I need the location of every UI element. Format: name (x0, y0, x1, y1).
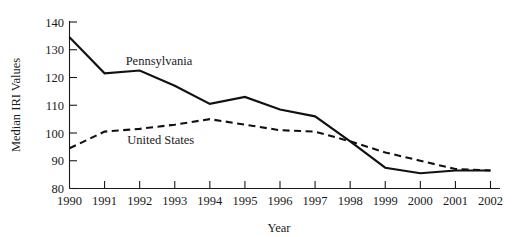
x-tick-label: 1994 (197, 194, 223, 208)
line-chart: Median IRI Values Year 80901001101201301… (0, 0, 524, 237)
y-tick-label: 110 (46, 99, 64, 113)
x-tick-label: 2000 (408, 194, 433, 208)
x-tick-label: 2001 (443, 194, 468, 208)
series-label-united-states: United States (127, 133, 194, 147)
x-tick-label: 1997 (303, 194, 328, 208)
y-tick-label: 130 (45, 43, 64, 57)
y-axis-ticks: 8090100110120130140 (45, 16, 77, 197)
x-tick-label: 1998 (338, 194, 363, 208)
x-tick-label: 1992 (127, 194, 152, 208)
x-tick-label: 1999 (373, 194, 398, 208)
x-tick-label: 1993 (162, 194, 187, 208)
x-tick-label: 1995 (232, 194, 257, 208)
x-tick-label: 1996 (268, 194, 293, 208)
chart-figure: Median IRI Values Year 80901001101201301… (0, 0, 524, 237)
series-label-pennsylvania: Pennsylvania (126, 54, 193, 68)
series-annotations: PennsylvaniaUnited States (126, 54, 195, 147)
x-tick-label: 2002 (478, 194, 503, 208)
y-tick-label: 90 (52, 154, 65, 168)
x-tick-label: 1991 (92, 194, 117, 208)
y-tick-label: 120 (45, 71, 64, 85)
y-axis-title: Median IRI Values (9, 58, 23, 152)
y-tick-label: 100 (45, 127, 64, 141)
y-tick-label: 140 (45, 16, 64, 30)
x-axis-ticks: 1990199119921993199419951996199719981999… (57, 181, 503, 208)
x-axis-title: Year (267, 221, 291, 235)
x-tick-label: 1990 (57, 194, 82, 208)
